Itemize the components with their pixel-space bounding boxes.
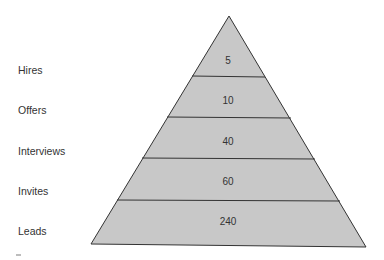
pyramid-shape <box>91 16 366 247</box>
level-value-invites: 60 <box>222 176 234 187</box>
level-value-hires: 5 <box>225 55 231 66</box>
pyramid-diagram: 5 10 40 60 240 <box>0 0 384 260</box>
cropped-text-fragment <box>16 254 21 256</box>
level-value-interviews: 40 <box>222 136 234 147</box>
level-value-offers: 10 <box>222 95 234 106</box>
level-value-leads: 240 <box>220 216 237 227</box>
